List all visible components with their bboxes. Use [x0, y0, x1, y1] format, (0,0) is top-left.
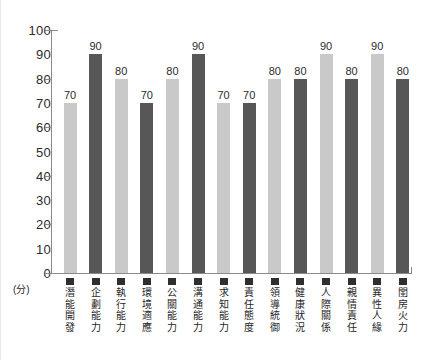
- x-axis-category-label: 求知能力: [213, 278, 235, 333]
- y-axis-tick-mark: [45, 273, 51, 274]
- bar-value-label: 70: [53, 89, 87, 101]
- bar: [396, 79, 409, 273]
- bar: [320, 54, 333, 273]
- bar-column: 70: [64, 30, 77, 273]
- x-axis-category-text: 異性人緣: [366, 287, 388, 333]
- bar-column: 90: [320, 30, 333, 273]
- bar-column: 90: [89, 30, 102, 273]
- bar-column: 80: [345, 30, 358, 273]
- x-axis-category-label: 親情責任: [341, 278, 363, 333]
- legend-square-icon: [194, 278, 202, 285]
- x-axis-category-text: 領導統御: [264, 287, 286, 333]
- bar: [345, 79, 358, 273]
- x-axis-labels: 潛能開發企劃能力執行能力環境適應公關能力溝通能力求知能力責任態度領導統御健康狀況…: [51, 278, 412, 358]
- legend-square-icon: [373, 278, 381, 285]
- bar-column: 80: [396, 30, 409, 273]
- x-axis-category-text: 溝通能力: [187, 287, 209, 333]
- x-axis-category-label: 人際關係: [315, 278, 337, 333]
- bar: [166, 79, 179, 273]
- x-axis-category-text: 求知能力: [213, 287, 235, 333]
- bar-column: 80: [166, 30, 179, 273]
- bar-value-label: 80: [386, 65, 420, 77]
- legend-square-icon: [399, 278, 407, 285]
- x-axis-category-label: 環境適應: [136, 278, 158, 333]
- legend-square-icon: [66, 278, 74, 285]
- y-axis-tick-label: 90: [5, 47, 51, 62]
- bar: [268, 79, 281, 273]
- bar: [192, 54, 205, 273]
- legend-square-icon: [168, 278, 176, 285]
- x-axis-category-label: 領導統御: [264, 278, 286, 333]
- x-axis-line: [51, 273, 412, 274]
- bar-value-label: 90: [79, 40, 113, 52]
- legend-square-icon: [92, 278, 100, 285]
- x-axis-category-text: 閨房火力: [392, 287, 414, 333]
- y-axis-tick-label: 30: [5, 193, 51, 208]
- bar-column: 80: [294, 30, 307, 273]
- legend-square-icon: [296, 278, 304, 285]
- legend-square-icon: [322, 278, 330, 285]
- x-axis-category-text: 企劃能力: [85, 287, 107, 333]
- bar: [217, 103, 230, 273]
- x-axis-category-label: 潛能開發: [59, 278, 81, 333]
- x-axis-category-label: 企劃能力: [85, 278, 107, 333]
- bar-column: 90: [371, 30, 384, 273]
- bar-series: 7090807080907070808090809080: [51, 30, 412, 273]
- bar-chart: 1009080706050403020100 (分) 7090807080907…: [1, 0, 436, 360]
- bar: [243, 103, 256, 273]
- x-axis-category-text: 執行能力: [110, 287, 132, 333]
- x-axis-category-text: 公關能力: [161, 287, 183, 333]
- x-axis-category-text: 健康狀況: [289, 287, 311, 333]
- bar-column: 80: [115, 30, 128, 273]
- bar-column: 90: [192, 30, 205, 273]
- legend-square-icon: [143, 278, 151, 285]
- y-axis-tick-label: 10: [5, 241, 51, 256]
- bar: [294, 79, 307, 273]
- x-axis-category-text: 責任態度: [238, 287, 260, 333]
- bar-value-label: 80: [155, 65, 189, 77]
- bar-value-label: 70: [130, 89, 164, 101]
- page-background: 1009080706050403020100 (分) 7090807080907…: [0, 0, 436, 360]
- bar: [89, 54, 102, 273]
- bar-column: 70: [243, 30, 256, 273]
- x-axis-category-label: 責任態度: [238, 278, 260, 333]
- bar-value-label: 90: [360, 40, 394, 52]
- x-axis-category-label: 公關能力: [161, 278, 183, 333]
- bar-value-label: 80: [335, 65, 369, 77]
- legend-square-icon: [348, 278, 356, 285]
- legend-square-icon: [117, 278, 125, 285]
- bar-value-label: 90: [309, 40, 343, 52]
- x-axis-category-text: 親情責任: [341, 287, 363, 333]
- bar: [371, 54, 384, 273]
- bar-column: 80: [268, 30, 281, 273]
- bar: [140, 103, 153, 273]
- legend-square-icon: [271, 278, 279, 285]
- x-axis-category-text: 潛能開發: [59, 287, 81, 333]
- bar: [64, 103, 77, 273]
- x-axis-category-label: 異性人緣: [366, 278, 388, 333]
- x-axis-category-label: 健康狀況: [289, 278, 311, 333]
- bar-value-label: 80: [283, 65, 317, 77]
- bar-column: 70: [140, 30, 153, 273]
- x-axis-category-text: 人際關係: [315, 287, 337, 333]
- y-axis-tick-label: 70: [5, 95, 51, 110]
- y-axis-tick-label: 50: [5, 144, 51, 159]
- y-axis-ticks: 1009080706050403020100: [1, 0, 51, 360]
- x-axis-category-label: 閨房火力: [392, 278, 414, 333]
- bar: [115, 79, 128, 273]
- legend-square-icon: [245, 278, 253, 285]
- x-axis-category-label: 執行能力: [110, 278, 132, 333]
- bar-value-label: 90: [181, 40, 215, 52]
- x-axis-category-label: 溝通能力: [187, 278, 209, 333]
- bar-value-label: 70: [232, 89, 266, 101]
- legend-square-icon: [220, 278, 228, 285]
- bar-column: 70: [217, 30, 230, 273]
- x-axis-category-text: 環境適應: [136, 287, 158, 333]
- bar-value-label: 80: [104, 65, 138, 77]
- y-axis-unit-label: (分): [13, 281, 30, 296]
